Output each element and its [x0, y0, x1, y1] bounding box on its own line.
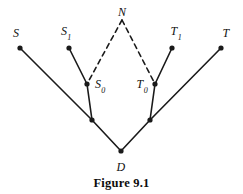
node-dots-group: [17, 45, 223, 153]
node-label-t0: T0: [137, 78, 148, 93]
dashed-edges-group: [87, 20, 155, 84]
node-dot-jl: [89, 117, 94, 122]
node-dot-t1: [169, 45, 174, 50]
figure-container: SS1S0NT0T1TD Figure 9.1: [0, 0, 243, 194]
node-label-s: S: [13, 27, 19, 39]
node-dot-jr: [147, 117, 152, 122]
node-label-s1: S1: [61, 25, 71, 40]
node-label-subscript: 1: [178, 33, 182, 42]
node-label-d: D: [117, 161, 126, 173]
figure-caption: Figure 9.1: [0, 176, 243, 191]
edge-s1-s0: [69, 48, 87, 84]
dashed-edge-n-s0: [87, 20, 122, 84]
edge-d-jr: [121, 120, 150, 151]
solid-edges-group: [20, 48, 221, 151]
edge-jr-t: [150, 48, 221, 120]
node-label-n: N: [118, 6, 126, 18]
edge-t0-t1: [155, 48, 172, 84]
edge-jl-d: [92, 120, 121, 151]
node-label-s0: S0: [95, 78, 105, 93]
node-dot-s0: [84, 81, 89, 86]
node-label-subscript: 0: [144, 86, 148, 95]
node-dot-t0: [152, 81, 157, 86]
node-label-subscript: 0: [101, 86, 105, 95]
node-label-t: T: [223, 27, 230, 39]
node-label-subscript: 1: [67, 33, 71, 42]
node-label-t1: T1: [171, 25, 182, 40]
node-dot-t: [218, 45, 223, 50]
dashed-edge-n-t0: [122, 20, 155, 84]
edge-s-jl: [20, 48, 92, 120]
node-dot-s1: [66, 45, 71, 50]
node-dot-s: [17, 45, 22, 50]
node-dot-d: [118, 148, 123, 153]
edge-s0-jl: [87, 84, 92, 120]
